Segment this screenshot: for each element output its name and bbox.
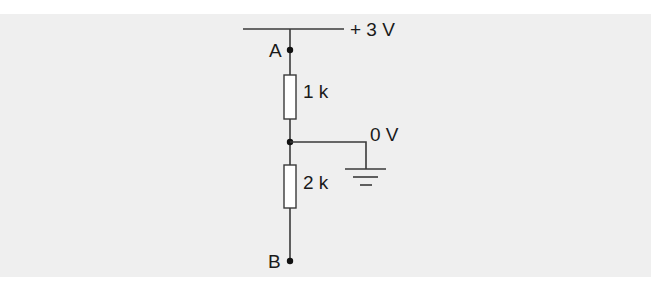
node-a-dot — [287, 47, 293, 53]
node-b-dot — [287, 258, 293, 264]
node-b-label: B — [268, 251, 281, 272]
supply-voltage-label: + 3 V — [350, 19, 395, 40]
node-a-label: A — [269, 40, 282, 61]
wire-to-ground — [290, 142, 366, 169]
resistor-1k — [284, 75, 296, 119]
ground-voltage-label: 0 V — [370, 124, 399, 145]
resistor-1k-label: 1 k — [303, 81, 329, 102]
ground-icon — [345, 169, 386, 185]
circuit-diagram: + 3 V A 1 k 0 V 2 k B — [0, 0, 656, 287]
resistor-2k-label: 2 k — [303, 172, 329, 193]
resistor-2k — [284, 165, 296, 208]
